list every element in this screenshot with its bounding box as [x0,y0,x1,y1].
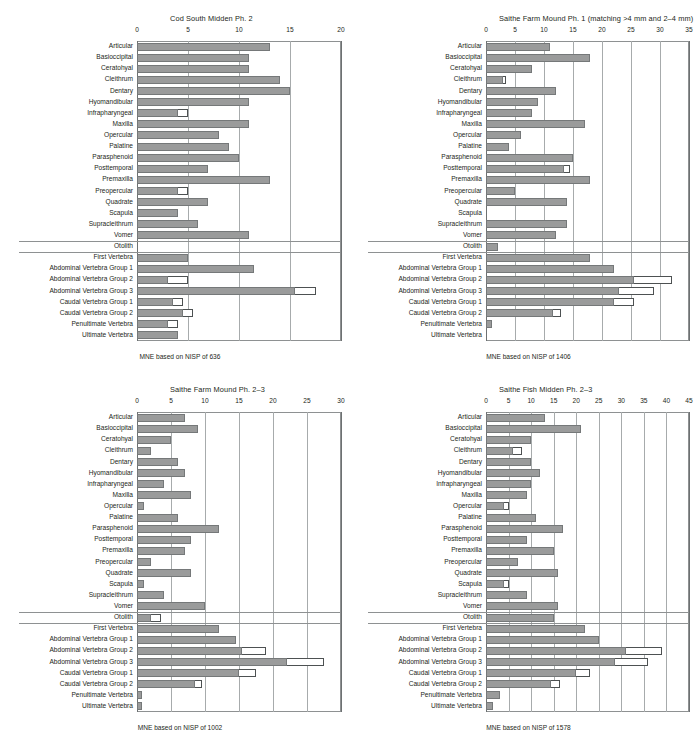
row-label: Caudal Vertebra Group 1 [2,299,133,306]
gridline [631,41,632,341]
x-tick-label: 15 [569,26,576,33]
label-section-separator [368,623,486,624]
bar [486,547,554,555]
gridline [544,41,545,341]
bar [486,43,550,51]
row-label: Palatine [351,514,482,521]
gridline [554,412,555,712]
section-separator [486,623,689,624]
row-label: Abdominal Vertebra Group 2 [351,647,482,654]
row-label-column: ArticularBasioccipitalCeratohyalCleithru… [351,412,482,712]
bar [137,187,178,195]
figure-grid: Cod South Midden Ph. 205101520ArticularB… [0,0,699,743]
row-label: First Vertebra [2,254,133,261]
bar [486,165,564,173]
bar [137,625,219,633]
row-label: Basioccipital [2,425,133,432]
plot-area [137,41,341,341]
gridline [515,41,516,341]
row-label: Parasphenoid [351,154,482,161]
gridline [341,412,342,712]
bar [486,109,532,117]
x-tick-label: 30 [656,26,663,33]
bar [486,436,531,444]
gridline [660,41,661,341]
row-label: Infrapharyngeal [351,481,482,488]
row-label: Maxilla [351,121,482,128]
bar [137,525,219,533]
bar [137,320,168,328]
row-label: Quadrate [2,570,133,577]
x-tick-label: 30 [337,397,344,404]
row-label: Caudal Vertebra Group 2 [351,681,482,688]
row-label: Caudal Vertebra Group 2 [2,681,133,688]
bar [486,220,567,228]
plot-frame [486,41,689,341]
row-label: Ultimate Vertebra [2,332,133,339]
row-label: Parasphenoid [2,525,133,532]
bar [486,647,626,655]
bar [137,265,254,273]
bar [137,287,295,295]
bar [137,65,249,73]
section-separator [137,241,341,242]
chart-title: Saithe Farm Mound Ph. 1 (matching >4 mm … [499,14,693,23]
bar [137,602,205,610]
row-label: Otolith [351,243,482,250]
x-tick-label: 5 [169,397,173,404]
bar [486,298,614,306]
bar [486,625,585,633]
bar [137,231,249,239]
bar [486,425,581,433]
row-label: Hyomandibular [351,99,482,106]
row-label: Dentary [2,88,133,95]
row-label: Caudal Vertebra Group 1 [351,299,482,306]
row-label: Maxilla [2,121,133,128]
row-label: Infrapharyngeal [2,481,133,488]
bar [486,76,503,84]
x-tick-label: 20 [598,26,605,33]
row-label: Abdominal Vertebra Group 2 [2,647,133,654]
bar [486,580,504,588]
row-label: Ultimate Vertebra [2,703,133,710]
x-tick-label: 40 [663,397,670,404]
row-label: Abdominal Vertebra Group 1 [351,636,482,643]
bar [486,276,634,284]
bar [137,131,219,139]
x-tick-label: 20 [269,397,276,404]
row-label: Hyomandibular [2,99,133,106]
bar [486,143,509,151]
row-label: Ultimate Vertebra [351,332,482,339]
chart-title: Saithe Farm Mound Ph. 2–3 [170,385,265,394]
row-label: Cleithrum [351,447,482,454]
bar [137,680,195,688]
row-label: First Vertebra [2,625,133,632]
gridline [689,41,690,341]
row-label: Palatine [351,143,482,150]
gridline [531,412,532,712]
plot-area [486,412,689,712]
gridline [341,41,342,341]
bar [137,120,249,128]
section-separator [486,612,689,613]
gridline [666,412,667,712]
chart-panel-1: Saithe Farm Mound Ph. 1 (matching >4 mm … [349,0,699,371]
bar [137,558,151,566]
label-section-separator [19,623,137,624]
bar [486,536,527,544]
x-tick-label: 15 [235,397,242,404]
row-label: Otolith [2,243,133,250]
bar [137,414,185,422]
row-label: Articular [351,414,482,421]
row-label: Abdominal Vertebra Group 3 [351,659,482,666]
row-label: Caudal Vertebra Group 2 [351,310,482,317]
x-tick-label: 35 [685,26,692,33]
bar [486,602,558,610]
x-tick-label: 5 [507,397,511,404]
bar [137,658,287,666]
gridline [205,412,206,712]
plot-area [486,41,689,341]
bar [137,636,236,644]
row-label: Maxilla [351,492,482,499]
bar [486,154,573,162]
